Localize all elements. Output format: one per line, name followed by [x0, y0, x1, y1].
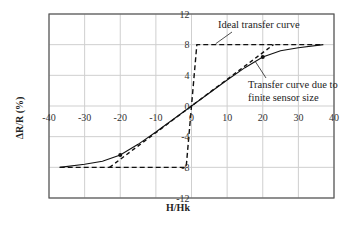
y-tick-label: 0	[185, 101, 190, 112]
x-axis-title: H/Hk	[166, 202, 190, 213]
data-marker	[118, 153, 122, 157]
y-axis-title: ΔR/R (%)	[14, 97, 26, 140]
x-tick-label: 10	[222, 112, 232, 123]
x-tick-label: -10	[149, 112, 162, 123]
annotation-finite-size-curve: Transfer curve due to	[248, 79, 338, 90]
x-tick-label: 30	[293, 112, 303, 123]
y-tick-label: -4	[181, 131, 189, 142]
transfer-curve-chart: -40-30-20-1001020304012840-4-8-12 Ideal …	[0, 0, 353, 231]
y-tick-label: 4	[185, 70, 190, 81]
x-tick-label: 0	[189, 112, 194, 123]
annotation-ideal-curve: Ideal transfer curve	[218, 19, 300, 30]
annotation-leader-line	[216, 32, 232, 44]
x-tick-label: -40	[42, 112, 55, 123]
data-marker	[261, 55, 265, 59]
x-tick-label: -20	[114, 112, 127, 123]
y-tick-label: 12	[180, 9, 190, 20]
y-tick-label: 8	[185, 39, 190, 50]
annotations: Ideal transfer curveTransfer curve due t…	[216, 19, 338, 103]
y-tick-label: -8	[181, 162, 189, 173]
x-tick-label: 40	[329, 112, 339, 123]
x-tick-label: 20	[258, 112, 268, 123]
annotation-finite-size-curve-line2: finite sensor size	[248, 92, 319, 103]
x-tick-label: -30	[78, 112, 91, 123]
